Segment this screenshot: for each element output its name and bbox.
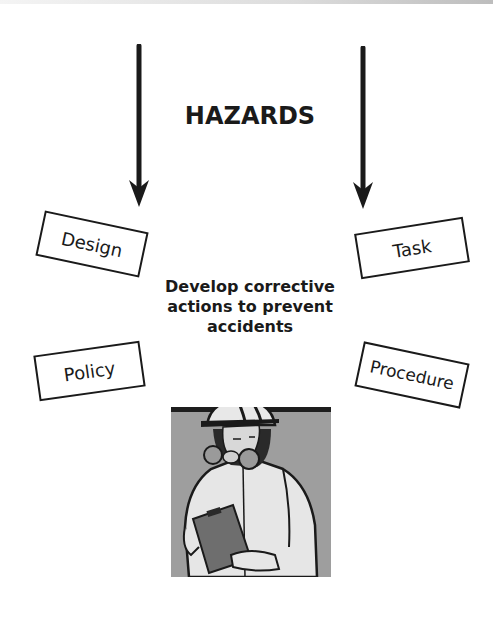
right-down-arrow-icon <box>351 46 375 212</box>
policy-label: Policy <box>62 357 116 385</box>
corrective-actions-text: Develop corrective actions to prevent ac… <box>135 277 365 337</box>
left-down-arrow-icon <box>127 44 151 210</box>
design-label: Design <box>59 227 124 260</box>
worker-with-respirator-icon <box>171 407 331 577</box>
hazards-title: HAZARDS <box>180 102 320 130</box>
procedure-box: Procedure <box>354 341 469 408</box>
top-edge-band <box>0 0 493 4</box>
task-label: Task <box>391 235 433 262</box>
center-text-line-1: Develop corrective <box>135 277 365 297</box>
design-box: Design <box>35 210 148 277</box>
task-box: Task <box>354 217 470 280</box>
center-text-line-2: actions to prevent <box>135 297 365 317</box>
procedure-label: Procedure <box>368 356 456 393</box>
policy-box: Policy <box>33 341 145 401</box>
center-text-line-3: accidents <box>135 317 365 337</box>
worker-illustration <box>171 407 331 577</box>
